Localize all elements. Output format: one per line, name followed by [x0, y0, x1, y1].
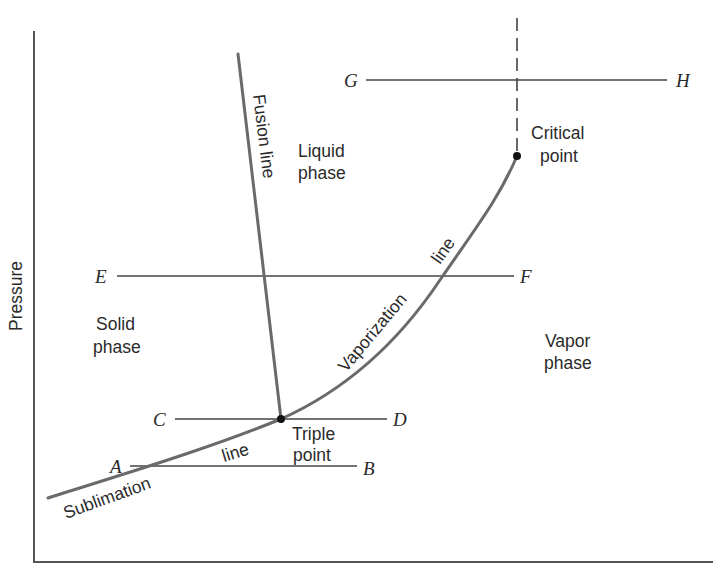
- triple-point-label: Triple: [292, 424, 335, 444]
- label-f: F: [519, 266, 532, 287]
- label-d: D: [392, 409, 407, 430]
- phase-diagram: Pressure G H E F C D A B Liquid phase So…: [0, 0, 713, 571]
- triple-point-marker: [277, 415, 285, 423]
- sublimation-line-label: line: [219, 439, 251, 466]
- critical-point-label: Critical: [531, 123, 584, 143]
- label-b: B: [363, 458, 375, 479]
- vaporization-curve: [281, 156, 517, 419]
- label-e: E: [94, 266, 107, 287]
- isobar-letters: G H E F C D A B: [94, 70, 691, 479]
- critical-point-marker: [513, 152, 521, 160]
- label-c: C: [153, 409, 166, 430]
- label-a: A: [108, 456, 122, 477]
- triple-point-label-2: point: [293, 445, 331, 465]
- y-axis-label: Pressure: [6, 261, 26, 331]
- phase-labels: Liquid phase Solid phase Vapor phase: [93, 141, 592, 373]
- critical-point-label-2: point: [540, 146, 578, 166]
- label-g: G: [344, 70, 358, 91]
- solid-phase-label: Solid: [96, 314, 135, 334]
- vapor-phase-label-2: phase: [544, 353, 592, 373]
- fusion-line-label: Fusion line: [249, 93, 279, 179]
- liquid-phase-label-2: phase: [298, 163, 346, 183]
- vapor-phase-label: Vapor: [545, 331, 591, 351]
- isobars: [117, 80, 667, 466]
- solid-phase-label-2: phase: [93, 337, 141, 357]
- liquid-phase-label: Liquid: [298, 141, 345, 161]
- axes: Pressure: [6, 31, 713, 562]
- label-h: H: [675, 70, 691, 91]
